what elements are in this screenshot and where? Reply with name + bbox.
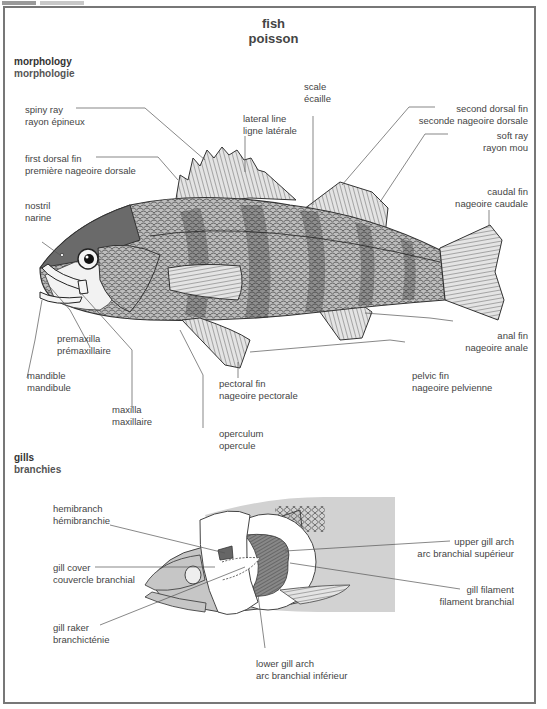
label-premaxilla: premaxilla prémaxillaire	[57, 333, 111, 356]
label-mandible: mandible mandibule	[27, 370, 71, 393]
gill-eye	[185, 566, 201, 584]
label-nostril: nostril narine	[25, 200, 51, 223]
label-gill-cover: gill cover couvercle branchial	[53, 562, 135, 585]
label-first-dorsal-fin: first dorsal fin première nageoire dorsa…	[25, 153, 136, 176]
label-lower-gill-arch: lower gill arch arc branchial inférieur	[256, 658, 347, 681]
label-caudal-fin: caudal fin nageoire caudale	[455, 186, 528, 209]
label-gill-filament: gill filament filament branchial	[440, 584, 514, 607]
label-spiny-ray: spiny ray rayon épineux	[25, 104, 85, 127]
label-upper-gill-arch: upper gill arch arc branchial supérieur	[417, 536, 514, 559]
label-anal-fin: anal fin nageoire anale	[465, 330, 528, 353]
label-hemibranch: hemibranch hémibranchie	[53, 503, 110, 526]
label-pelvic-fin: pelvic fin nageoire pelvienne	[412, 370, 492, 393]
label-gill-raker: gill raker branchicténie	[53, 622, 110, 645]
label-scale: scale écaille	[304, 81, 331, 104]
label-soft-ray: soft ray rayon mou	[483, 130, 528, 153]
label-maxilla: maxilla maxillaire	[112, 404, 152, 427]
label-pectoral-fin: pectoral fin nageoire pectorale	[219, 378, 298, 401]
label-lateral-line: lateral line ligne latérale	[243, 113, 297, 136]
label-second-dorsal-fin: second dorsal fin seconde nageoire dorsa…	[419, 103, 528, 126]
label-operculum: operculum opercule	[219, 428, 263, 451]
